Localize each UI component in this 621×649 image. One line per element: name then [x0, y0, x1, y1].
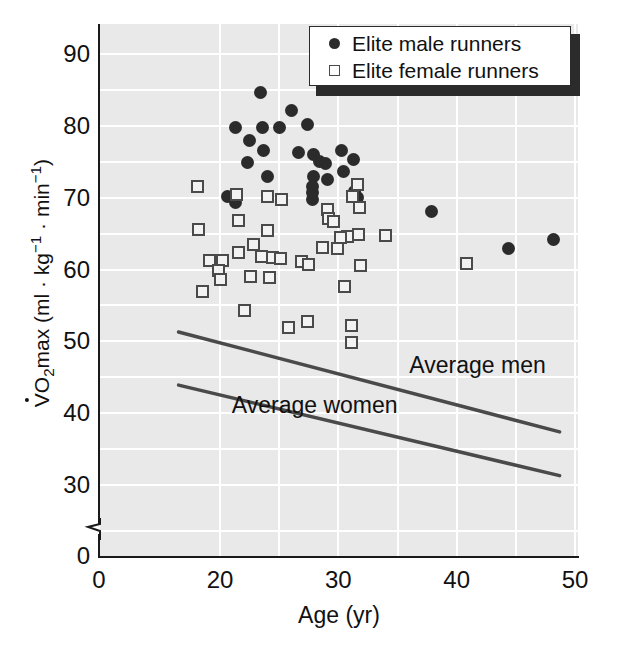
open-square-icon [322, 65, 346, 76]
x-tick-label: 50 [545, 566, 605, 594]
legend-label-elite-female: Elite female runners [352, 60, 539, 81]
plot-area: Average men Average women [100, 24, 578, 556]
legend-item-elite-female: Elite female runners [322, 56, 539, 84]
data-point-female [247, 238, 260, 251]
filled-circle-icon [322, 38, 346, 49]
data-point-male [301, 118, 314, 131]
data-point-male [306, 193, 319, 206]
data-point-male [241, 156, 254, 169]
y-axis-title-mid: · min [30, 183, 53, 236]
data-point-male [321, 173, 334, 186]
data-point-male [285, 104, 298, 117]
y-axis-title-close: ) [30, 159, 53, 166]
data-point-female [345, 336, 358, 349]
y-axis-title-o: O [30, 377, 53, 393]
data-point-female [232, 214, 245, 227]
annotation-average-men: Average men [409, 352, 545, 379]
data-point-male [337, 165, 350, 178]
legend-item-elite-male: Elite male runners [322, 29, 521, 57]
data-point-male [229, 121, 242, 134]
data-point-male [347, 153, 360, 166]
data-point-female [230, 188, 243, 201]
v-dot-accent: V [30, 393, 54, 407]
data-point-female [191, 180, 204, 193]
x-axis-line [98, 556, 579, 558]
data-point-male [256, 121, 269, 134]
data-point-female [351, 178, 364, 191]
vo2max-scatter-figure: Average men Average women 03040506070809… [0, 0, 621, 649]
x-tick-label: 40 [427, 566, 487, 594]
data-point-male [257, 144, 270, 157]
x-axis-title: Age (yr) [100, 602, 578, 629]
data-point-female [261, 224, 274, 237]
gridline-vertical [456, 24, 458, 556]
legend-label-elite-male: Elite male runners [352, 33, 521, 54]
data-point-female [460, 257, 473, 270]
data-point-male [547, 233, 560, 246]
y-axis-title-sup-b: −1 [27, 166, 44, 183]
legend-box: Elite male runners Elite female runners [309, 26, 571, 86]
legend: Elite male runners Elite female runners [309, 26, 580, 96]
data-point-female [354, 259, 367, 272]
gridline-vertical [574, 24, 576, 556]
data-point-male [243, 134, 256, 147]
x-tick-label: 30 [308, 566, 368, 594]
data-point-female [238, 304, 251, 317]
data-point-male [254, 86, 267, 99]
y-axis-line [98, 24, 100, 524]
data-point-female [316, 241, 329, 254]
data-point-male [425, 205, 438, 218]
data-point-female [275, 193, 288, 206]
gridline-vertical [515, 24, 517, 556]
data-point-male [502, 242, 515, 255]
data-point-female [214, 273, 227, 286]
data-point-female [274, 252, 287, 265]
y-axis-title-max: max (ml · kg [30, 253, 53, 369]
data-point-female [244, 270, 257, 283]
data-point-female [263, 271, 276, 284]
data-point-female [327, 215, 340, 228]
data-point-male [335, 144, 348, 157]
x-tick-label: 0 [69, 566, 129, 594]
data-point-female [301, 315, 314, 328]
data-point-female [302, 258, 315, 271]
data-point-male [292, 146, 305, 159]
data-point-female [345, 319, 358, 332]
data-point-female [261, 190, 274, 203]
gridline-vertical [278, 24, 280, 556]
data-point-male [261, 170, 274, 183]
y-axis-title-sub2: 2 [40, 368, 57, 376]
data-point-female [232, 246, 245, 259]
gridline-vertical [397, 24, 399, 556]
data-point-female [338, 280, 351, 293]
data-point-female [331, 242, 344, 255]
y-axis-title-sup-a: −1 [27, 236, 44, 253]
data-point-female [353, 201, 366, 214]
data-point-female [196, 285, 209, 298]
data-point-female [192, 223, 205, 236]
data-point-male [273, 121, 286, 134]
gridline-vertical [219, 24, 221, 556]
annotation-average-women: Average women [232, 392, 398, 419]
data-point-female [282, 321, 295, 334]
data-point-male [319, 157, 332, 170]
y-tick-label: 0 [38, 544, 90, 568]
y-axis-title: VO2max (ml · kg−1 · min−1) [27, 23, 57, 543]
x-tick-label: 20 [190, 566, 250, 594]
data-point-female [379, 229, 392, 242]
